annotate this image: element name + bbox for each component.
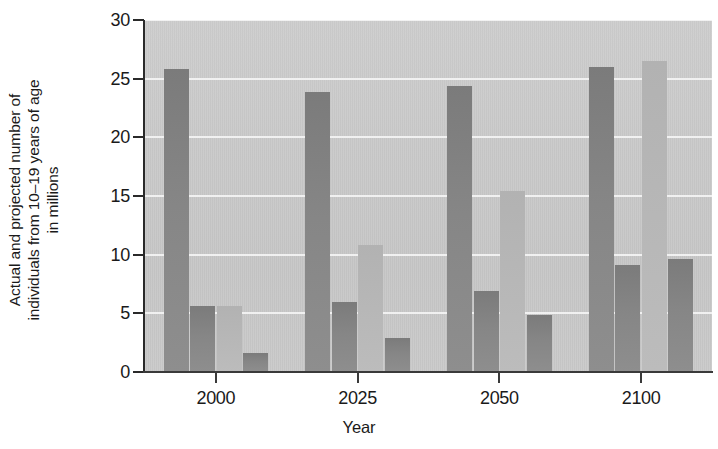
bar-2025-series-1 [305,92,330,372]
bar-2025-series-4 [385,338,410,372]
x-axis-line [143,371,713,373]
x-tick-mark-2025 [357,373,359,383]
y-tick-label-10: 10 [100,246,130,264]
x-tick-label-2025: 2025 [318,388,398,409]
y-tick-label-25: 25 [100,70,130,88]
y-axis-title-line-2: individuals from 10–19 years of age [24,79,43,320]
bar-2050-series-2 [474,291,499,372]
x-tick-label-2050: 2050 [459,388,539,409]
y-tick-label-0: 0 [100,363,130,381]
bar-2000-series-2 [190,306,215,372]
x-tick-label-2000: 2000 [176,388,256,409]
y-axis-line [143,20,145,373]
bar-2025-series-3 [358,245,383,372]
bar-2000-series-4 [243,353,268,372]
gridline-30 [145,20,712,21]
bar-2100-series-4 [668,259,693,372]
plot-area [145,20,712,372]
bar-2050-series-3 [500,191,525,372]
bar-2000-series-3 [217,306,242,372]
bar-2000-series-1 [164,69,189,372]
gridline-20 [145,136,712,138]
y-tick-label-5: 5 [100,304,130,322]
x-axis-title: Year [0,418,718,437]
bar-2100-series-3 [642,61,667,372]
x-tick-label-2100: 2100 [601,388,681,409]
y-axis-title: Actual and projected number of individua… [0,0,66,400]
y-tick-label-15: 15 [100,187,130,205]
bar-2050-series-4 [527,315,552,372]
y-axis-title-line-1: Actual and projected number of [5,79,24,320]
y-tick-label-30: 30 [100,11,130,29]
y-axis-tick-labels: 051015202530 [96,0,130,449]
x-tick-mark-2050 [498,373,500,383]
gridline-10 [145,254,712,256]
x-tick-mark-2000 [215,373,217,383]
y-axis-title-line-3: in millions [43,79,62,320]
gridline-15 [145,195,712,197]
bar-2025-series-2 [332,302,357,372]
bar-2100-series-2 [615,265,640,372]
bar-2050-series-1 [447,86,472,372]
bar-chart-figure: Actual and projected number of individua… [0,0,718,449]
bar-2100-series-1 [589,67,614,372]
y-tick-label-20: 20 [100,128,130,146]
x-tick-mark-2100 [640,373,642,383]
gridline-25 [145,78,712,80]
